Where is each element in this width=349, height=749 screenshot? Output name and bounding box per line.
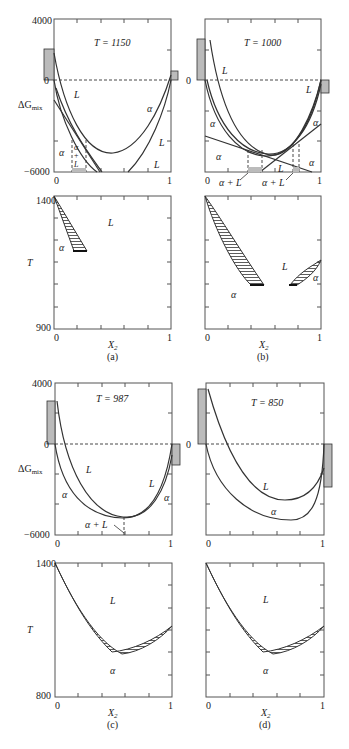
- x-tick-0: 0: [205, 175, 210, 186]
- x-tick-0: 0: [206, 538, 211, 549]
- plot-frame: [54, 196, 171, 329]
- y-tick-900: 900: [36, 322, 51, 333]
- phase-label-alpha: α: [313, 272, 319, 283]
- plot-frame: [55, 383, 172, 535]
- x-tick-1: 1: [167, 175, 172, 186]
- phase-label-alpha: α: [216, 151, 222, 162]
- phase-label-L: L: [305, 84, 312, 95]
- phase-label-L: L: [262, 481, 269, 492]
- panel-caption: (b): [257, 351, 269, 363]
- y-tick-1400: 1400: [36, 558, 56, 569]
- x-tick-1: 1: [167, 332, 172, 343]
- phase-label-alpha: α: [313, 117, 319, 128]
- y-tick-0: 0: [44, 439, 49, 450]
- x-tick-1: 1: [168, 700, 173, 711]
- panel-a-gibbs-plot: T = 1150 L α L L α α + L 4000 0 −6000 ΔG…: [18, 15, 178, 186]
- y-tick-minus6000: −6000: [24, 166, 50, 177]
- phase-label-alpha: α: [62, 489, 68, 500]
- phase-label-alpha: α: [263, 665, 269, 676]
- phase-label-L: L: [85, 464, 92, 475]
- x-tick-1: 1: [168, 538, 173, 549]
- phase-label-alpha-plus-L: α + L: [262, 177, 285, 188]
- y-tick-1400: 1400: [36, 195, 56, 206]
- panel-d-gibbs-plot: T = 850 L α 0 0 1: [186, 383, 332, 549]
- phase-label-alpha: α: [309, 157, 315, 168]
- y-tick-0: 0: [186, 439, 191, 450]
- phase-label-L: L: [262, 594, 269, 605]
- y-tick-0: 0: [44, 75, 49, 86]
- phase-label-L: L: [153, 159, 160, 170]
- x-tick-1: 1: [317, 175, 322, 186]
- panel-c-gibbs-plot: T = 987 L L α α α + L 4000 0 −6000 ΔGmix…: [18, 378, 180, 549]
- phase-label-alpha: α: [231, 289, 237, 300]
- x-tick-0: 0: [55, 700, 60, 711]
- figure-canvas: T = 1150 L α L L α α + L 4000 0 −6000 ΔG…: [0, 0, 349, 749]
- plot-frame: [206, 563, 324, 697]
- temperature-label: T = 850: [251, 397, 283, 408]
- panel-d-phase-diagram: L α 0 1 X2 (d): [206, 563, 325, 731]
- panel-caption: (d): [259, 719, 271, 731]
- temperature-label: T = 987: [96, 393, 129, 404]
- plot-frame: [205, 196, 321, 329]
- x-tick-1: 1: [317, 332, 322, 343]
- panel-a-phase-diagram: L α 1400 900 T 0 1 X2 (a): [27, 195, 172, 363]
- phase-label-alpha: α: [59, 147, 65, 158]
- phase-label-alpha: α: [147, 103, 153, 114]
- x-tick-1: 1: [320, 538, 325, 549]
- x-tick-0: 0: [205, 332, 210, 343]
- panel-caption: (c): [107, 719, 118, 731]
- phase-label-alpha-plus-L: α + L: [85, 519, 108, 530]
- y-axis-label: ΔGmix: [18, 463, 43, 476]
- phase-label-alpha: α: [164, 492, 170, 503]
- phase-label-alpha: α: [210, 118, 216, 129]
- phase-label-L: L: [277, 163, 284, 174]
- plot-frame: [55, 563, 172, 697]
- phase-label-L: L: [73, 160, 79, 169]
- phase-label-L: L: [148, 478, 155, 489]
- phase-label-alpha-plus-L: α + L: [219, 177, 242, 188]
- phase-label-L: L: [73, 89, 80, 100]
- y-tick-0: 0: [186, 75, 191, 86]
- temperature-label: T = 1000: [244, 37, 281, 48]
- phase-label-L: L: [221, 65, 228, 76]
- phase-label-L: L: [158, 137, 165, 148]
- y-axis-label: T: [27, 257, 34, 268]
- x-tick-1: 1: [320, 700, 325, 711]
- phase-label-alpha: α: [110, 665, 116, 676]
- phase-label-alpha: α: [59, 242, 65, 253]
- panel-c-phase-diagram: L α 1400 800 T 0 1 X2 (c): [27, 558, 173, 731]
- panel-b-phase-diagram: L α α 0 1 X2 (b): [205, 196, 322, 363]
- x-tick-0: 0: [55, 538, 60, 549]
- y-axis-label: T: [27, 624, 34, 635]
- y-tick-800: 800: [36, 690, 51, 701]
- y-tick-minus6000: −6000: [24, 529, 50, 540]
- panel-b-gibbs-plot: T = 1000 L L α α α α L α + L α + L 0 0 1: [186, 19, 329, 188]
- y-tick-4000: 4000: [32, 378, 52, 389]
- x-tick-0: 0: [54, 175, 59, 186]
- x-tick-0: 0: [206, 700, 211, 711]
- panel-caption: (a): [107, 351, 118, 363]
- y-axis-label: ΔGmix: [18, 99, 43, 112]
- phase-label-alpha: α: [271, 506, 277, 517]
- phase-label-L: L: [109, 595, 116, 606]
- phase-label-L: L: [107, 217, 114, 228]
- phase-label-L: L: [281, 261, 288, 272]
- x-tick-0: 0: [54, 332, 59, 343]
- y-tick-4000: 4000: [32, 15, 52, 26]
- temperature-label: T = 1150: [94, 37, 130, 48]
- phase-label-plus: +: [74, 151, 79, 160]
